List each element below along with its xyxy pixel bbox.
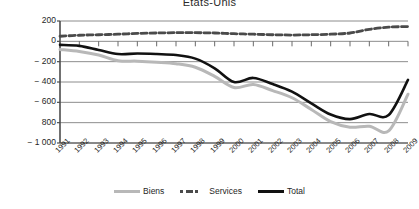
x-axis-tick-label: 1996 [151,137,169,155]
x-axis-tick-label: 1995 [131,137,149,155]
x-axis-tick-label: 1992 [73,137,91,155]
x-axis-tick-label: 1999 [209,137,227,155]
legend-item-services[interactable]: Services [180,186,242,196]
legend-label: Total [287,186,305,196]
x-axis-tick-label: 1994 [112,137,130,155]
x-axis-tick-label: 2002 [267,137,285,155]
x-axis-tick-label: 2007 [363,137,381,155]
legend-swatch-services-icon [180,187,206,195]
x-axis-tick-label: 2008 [383,137,401,155]
x-axis-tick-label: 2000 [228,137,246,155]
legend-item-total[interactable]: Total [258,186,305,196]
x-axis-labels: 1991199219931994199519961997199819992000… [0,0,419,209]
x-axis-tick-label: 2006 [344,137,362,155]
legend-swatch-total-icon [258,187,284,195]
x-axis-tick-label: 2004 [305,137,323,155]
legend-label: Biens [143,186,164,196]
x-axis-tick-label: 2001 [247,137,265,155]
x-axis-tick-label: 2009 [402,137,419,155]
chart-legend: BiensServicesTotal [0,186,419,196]
legend-item-biens[interactable]: Biens [114,186,164,196]
x-axis-tick-label: 1997 [170,137,188,155]
x-axis-tick-label: 2005 [325,137,343,155]
legend-swatch-biens-icon [114,187,140,195]
x-axis-tick-label: 1998 [189,137,207,155]
x-axis-tick-label: 1991 [54,137,72,155]
chart-etats-unis: États-Unis 2000− 200− 400− 600800− 1 000… [0,0,419,209]
x-axis-tick-label: 1993 [93,137,111,155]
x-axis-tick-label: 2003 [286,137,304,155]
legend-label: Services [209,186,242,196]
